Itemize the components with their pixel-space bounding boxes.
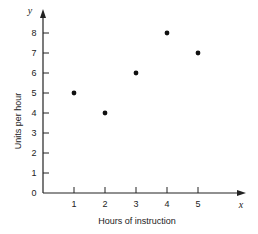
y-tick-label: 5 bbox=[31, 88, 36, 98]
y-tick-label: 8 bbox=[31, 28, 36, 38]
data-point bbox=[134, 71, 139, 76]
y-tick-label: 4 bbox=[31, 108, 36, 118]
y-tick-label: 7 bbox=[31, 48, 36, 58]
data-point bbox=[72, 91, 77, 96]
x-tick-label: 1 bbox=[71, 199, 76, 209]
y-tick-label: 6 bbox=[31, 68, 36, 78]
y-axis-arrow-icon bbox=[40, 9, 46, 18]
axes bbox=[40, 9, 246, 196]
y-tick-label: 1 bbox=[31, 168, 36, 178]
x-axis-arrow-icon bbox=[237, 190, 246, 196]
data-point bbox=[196, 51, 201, 56]
y-tick-label: 0 bbox=[31, 188, 36, 198]
data-points bbox=[72, 31, 201, 116]
x-tick-label: 5 bbox=[195, 199, 200, 209]
x-tick-label: 3 bbox=[133, 199, 138, 209]
x-axis-variable-label: x bbox=[238, 199, 244, 210]
y-tick-label: 2 bbox=[31, 148, 36, 158]
x-axis-title: Hours of instruction bbox=[98, 216, 176, 226]
y-axis-variable-label: y bbox=[27, 5, 33, 16]
x-tick-label: 2 bbox=[102, 199, 107, 209]
y-axis-ticks: 012345678 bbox=[31, 28, 49, 198]
x-tick-label: 4 bbox=[164, 199, 169, 209]
x-axis-ticks: 12345 bbox=[71, 187, 200, 209]
y-axis-title: Units per hour bbox=[13, 93, 23, 150]
y-tick-label: 3 bbox=[31, 128, 36, 138]
data-point bbox=[165, 31, 170, 36]
data-point bbox=[103, 111, 108, 116]
scatter-chart: 012345678 12345 y x Units per hour Hours… bbox=[0, 0, 258, 234]
